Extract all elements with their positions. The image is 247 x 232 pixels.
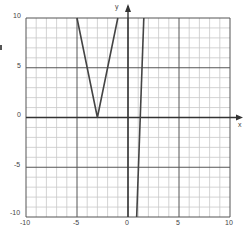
y-tick-label-neg10: -10 (10, 209, 20, 216)
x-axis-label: x (238, 121, 242, 128)
y-tick-label-neg5: -5 (14, 161, 20, 168)
x-tick-label-5: 5 (176, 219, 180, 226)
y-tick-label-10: 10 (13, 12, 21, 19)
y-axis-label: y (115, 3, 119, 10)
x-tick-label-neg10: -10 (20, 219, 30, 226)
edge-mark (0, 45, 2, 50)
x-tick-label-neg5: -5 (73, 219, 79, 226)
x-tick-label-10: 10 (225, 219, 233, 226)
axes (26, 4, 243, 217)
y-tick-label-0: 0 (17, 111, 21, 118)
y-tick-label-5: 5 (17, 62, 21, 69)
coordinate-plane (0, 0, 247, 232)
x-tick-label-0: 0 (125, 219, 129, 226)
